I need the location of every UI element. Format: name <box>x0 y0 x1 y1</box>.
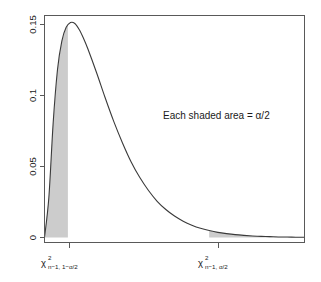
shaded-area-annotation: Each shaded area = α/2 <box>163 110 270 121</box>
x-tick-label-lower-superscript: 2 <box>48 254 52 261</box>
x-tick-label-lower-base: χ <box>41 257 46 268</box>
x-tick-label-upper-subscript: n−1, α/2 <box>205 263 228 270</box>
y-tick-label-0: 0 <box>27 235 38 240</box>
y-tick-label-0.1: 0.1 <box>27 89 38 102</box>
x-tick-label-upper-superscript: 2 <box>205 254 209 261</box>
x-tick-label-upper-base: χ <box>198 257 203 268</box>
y-tick-label-0.15: 0.15 <box>27 15 38 34</box>
chi-square-figure: 0.15 0.1 0.05 0 χ 2 n−1, 1−α/2 χ 2 n−1, … <box>0 0 321 282</box>
chi-square-distribution-chart: 0.15 0.1 0.05 0 χ 2 n−1, 1−α/2 χ 2 n−1, … <box>0 0 321 282</box>
plot-background <box>0 0 321 282</box>
y-tick-label-0.05: 0.05 <box>27 157 38 176</box>
x-tick-label-lower-subscript: n−1, 1−α/2 <box>48 263 78 270</box>
